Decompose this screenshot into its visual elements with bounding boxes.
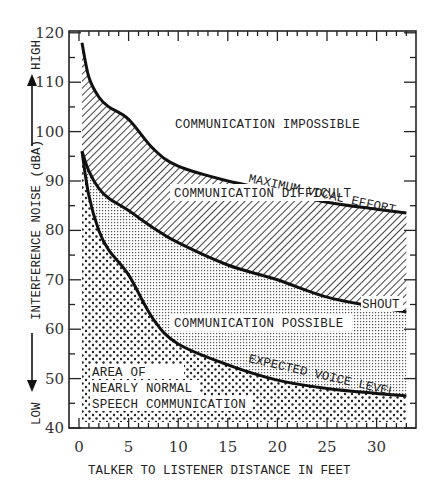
y-axis-high-label: HIGH	[30, 40, 44, 70]
region-label-normal-line2: NEARLY NORMAL	[92, 382, 192, 396]
tick-label: 50	[45, 370, 64, 388]
chart-svg: 051015202530405060708090100110120 COMMUN…	[0, 0, 439, 493]
tick-label: 60	[45, 320, 64, 338]
chart: 051015202530405060708090100110120 COMMUN…	[0, 0, 439, 493]
curve-label-shout-group: SHOUT	[361, 296, 403, 312]
label-impossible: COMMUNICATION IMPOSSIBLE	[175, 118, 360, 132]
y-axis-low-label: LOW	[30, 402, 44, 425]
tick-label: 80	[45, 221, 64, 239]
tick-label: 70	[45, 271, 64, 289]
tick-label: 90	[45, 172, 64, 190]
tick-label: 5	[124, 438, 134, 456]
tick-label: 110	[35, 73, 64, 91]
curve-label-shout: SHOUT	[362, 298, 400, 312]
tick-label: 30	[367, 438, 386, 456]
tick-label: 25	[317, 438, 336, 456]
x-axis-title: TALKER TO LISTENER DISTANCE IN FEET	[88, 464, 351, 478]
arrow-down-icon	[27, 333, 37, 392]
region-label-possible: COMMUNICATION POSSIBLE	[174, 317, 343, 331]
tick-label: 120	[35, 24, 64, 42]
tick-label: 40	[45, 419, 64, 437]
tick-label: 10	[169, 438, 188, 456]
region-label-impossible: COMMUNICATION IMPOSSIBLE	[175, 118, 360, 132]
tick-label: 15	[218, 438, 237, 456]
region-label-normal-line1: AREA OF	[92, 366, 146, 380]
y-axis-high-group: HIGH	[30, 40, 44, 70]
y-axis-low-group: LOW	[30, 402, 44, 425]
label-possible: COMMUNICATION POSSIBLE	[170, 314, 352, 331]
tick-label: 0	[74, 438, 84, 456]
y-axis-title-group: INTERFERENCE NOISE (dBA)	[30, 140, 44, 320]
tick-label: 20	[268, 438, 287, 456]
tick-label: 100	[35, 123, 64, 141]
region-label-normal-line3: SPEECH COMMUNICATION	[92, 398, 246, 412]
y-axis-title: INTERFERENCE NOISE (dBA)	[30, 140, 44, 320]
